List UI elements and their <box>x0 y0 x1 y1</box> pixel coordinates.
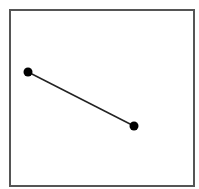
point-a-dot <box>24 68 33 77</box>
frame-box <box>10 10 194 186</box>
line-segment <box>28 72 134 126</box>
point-b-dot <box>130 122 139 131</box>
diagram-canvas <box>0 0 199 189</box>
